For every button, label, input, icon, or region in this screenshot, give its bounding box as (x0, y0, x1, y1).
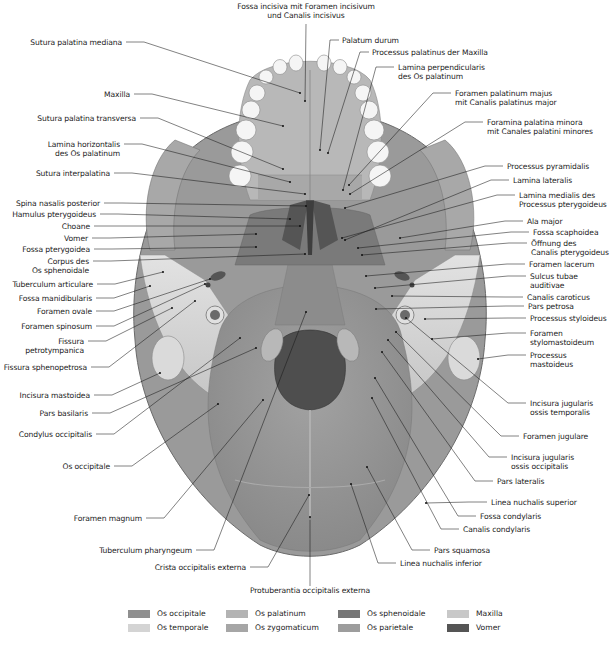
label-fissura-petrotympanica: Fissura petrotympanica (25, 337, 84, 355)
label-foramen-jugulare: Foramen jugulare (523, 432, 588, 441)
legend-item-os-occipitale: Os occipitale (128, 609, 206, 618)
legend-item-os-temporale: Os temporale (128, 623, 208, 632)
label-processus-mastoideus: Processus mastoideus (530, 351, 573, 369)
label-fossa-pterygoidea: Fossa pterygoidea (22, 245, 90, 254)
label-processus-styloideus: Processus styloideus (530, 314, 607, 323)
legend-item-maxilla: Maxilla (447, 609, 503, 618)
label-foramen-palatinum-majus: Foramen palatinum majus mit Canalis pala… (455, 89, 556, 107)
label-fossa-incisiva: Fossa incisiva mit Foramen incisivum und… (206, 2, 406, 20)
label-foramen-stylomastoideum: Foramen stylomastoideum (530, 329, 594, 347)
label-incisura-jugularis-ossis-occipitalis: Incisura jugularis ossis occipitalis (511, 453, 574, 471)
label-canalis-condylaris: Canalis condylaris (463, 525, 530, 534)
label-os-occipitale: Os occipitale (63, 462, 111, 471)
label-pars-basilaris: Pars basilaris (40, 409, 88, 418)
label-sulcus-tubae-auditivae: Sulcus tubae auditivae (530, 272, 578, 290)
label-oeffnung-canalis-pterygoideus: Öffnung des Canalis pterygoideus (531, 239, 609, 257)
legend-swatch (128, 610, 150, 618)
label-pars-lateralis: Pars lateralis (497, 477, 544, 486)
legend-label: Os sphenoidale (367, 609, 425, 618)
label-incisura-jugularis-ossis-temporalis: Incisura jugularis ossis temporalis (530, 399, 593, 417)
legend-swatch (447, 610, 469, 618)
label-condylus-occipitalis: Condylus occipitalis (19, 430, 92, 439)
label-spina-nasalis-posterior: Spina nasalis posterior (16, 199, 100, 208)
legend-label: Os parietale (367, 623, 413, 632)
legend-label: Os occipitale (157, 609, 206, 618)
label-foramen-magnum: Foramen magnum (74, 514, 142, 523)
legend-label: Maxilla (476, 609, 503, 618)
legend-swatch (338, 610, 360, 618)
label-processus-palatinus-maxilla: Processus palatinus der Maxilla (372, 48, 488, 57)
legend-item-vomer: Vomer (447, 623, 500, 632)
label-tuberculum-articulare: Tuberculum articulare (12, 280, 93, 289)
legend-swatch (447, 624, 469, 632)
legend-item-os-zygomaticum: Os zygomaticum (226, 623, 319, 632)
label-lamina-lateralis: Lamina lateralis (513, 176, 572, 185)
label-pars-petrosa: Pars petrosa (528, 302, 574, 311)
leader-processus-mastoideus (478, 355, 526, 359)
label-sutura-palatina-mediana: Sutura palatina mediana (30, 38, 122, 47)
label-fossa-scaphoidea: Fossa scaphoidea (533, 228, 598, 237)
label-foramen-lacerum: Foramen lacerum (529, 260, 594, 269)
label-ala-major: Ala major (527, 217, 562, 226)
legend-swatch (226, 624, 248, 632)
label-foramen-ovale: Foramen ovale (37, 307, 92, 316)
label-linea-nuchalis-superior: Linea nuchalis superior (491, 498, 577, 507)
label-foramen-spinosum: Foramen spinosum (21, 322, 92, 331)
label-fissura-sphenopetrosa: Fissura sphenopetrosa (4, 363, 87, 372)
label-lamina-medialis: Lamina medialis des Processus pterygoide… (519, 191, 607, 209)
label-choane: Choane (62, 222, 90, 231)
label-vomer: Vomer (64, 234, 88, 243)
label-corpus-des-os-sphenoidale: Corpus des Os sphenoidale (32, 257, 89, 275)
label-palatum-durum: Palatum durum (342, 36, 399, 45)
label-foramina-palatina-minora: Foramina palatina minora mit Canales pal… (487, 118, 593, 136)
label-processus-pyramidalis: Processus pyramidalis (507, 162, 589, 171)
legend-label: Vomer (476, 623, 500, 632)
leader-linea-nuchalis-superior (426, 502, 487, 503)
label-lamina-perpendicularis: Lamina perpendicularis des Os palatinum (398, 63, 485, 81)
legend-label: Os zygomaticum (255, 623, 319, 632)
label-crista-occipitalis-externa: Crista occipitalis externa (155, 563, 246, 572)
label-sutura-palatina-transversa: Sutura palatina transversa (37, 114, 136, 123)
label-canalis-caroticus: Canalis caroticus (527, 293, 590, 302)
label-maxilla: Maxilla (104, 90, 130, 99)
legend-swatch (128, 624, 150, 632)
palate (239, 61, 382, 200)
legend-item-os-palatinum: Os palatinum (226, 609, 306, 618)
label-incisura-mastoidea: Incisura mastoidea (20, 391, 90, 400)
skull-base-diagram: Sutura palatina medianaMaxillaSutura pal… (0, 0, 610, 655)
legend-item-os-sphenoidale: Os sphenoidale (338, 609, 425, 618)
label-pars-squamosa: Pars squamosa (434, 546, 490, 555)
legend-swatch (338, 624, 360, 632)
label-sutura-interpalatina: Sutura interpalatina (36, 169, 110, 178)
label-fossa-condylaris: Fossa condylaris (480, 512, 541, 521)
label-hamulus-pterygoideus: Hamulus pterygoideus (12, 210, 96, 219)
label-lamina-horizontalis: Lamina horizontalis des Os palatinum (48, 140, 120, 158)
label-tuberculum-pharyngeum: Tuberculum pharyngeum (99, 546, 192, 555)
label-protuberantia-occipitalis-externa: Protuberantia occipitalis externa (210, 586, 410, 595)
legend-label: Os temporale (157, 623, 208, 632)
legend-label: Os palatinum (255, 609, 306, 618)
label-linea-nuchalis-inferior: Linea nuchalis inferior (400, 559, 482, 568)
label-fossa-mandibularis: Fossa manidibularis (19, 294, 92, 303)
legend-item-os-parietale: Os parietale (338, 623, 413, 632)
legend: Os occipitaleOs temporaleOs palatinumOs … (0, 605, 610, 645)
legend-swatch (226, 610, 248, 618)
